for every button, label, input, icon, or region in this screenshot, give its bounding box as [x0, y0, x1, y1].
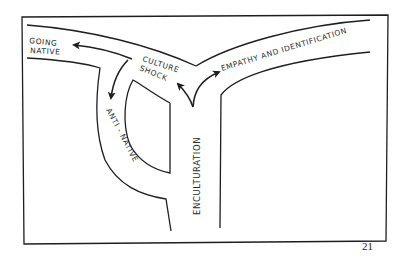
arrow-to-anti-native-icon: [111, 60, 128, 98]
label-going-native-line2: NATIVE: [30, 46, 61, 57]
arrow-to-culture-shock-icon: [178, 84, 193, 107]
road-edge-center-right: [220, 52, 370, 228]
arrow-to-going-native-icon: [74, 45, 132, 59]
road-edge-left-branch-outer: [27, 58, 171, 231]
arrow-to-empathy-icon: [193, 72, 219, 107]
road-diagram: GOING NATIVE CULTURE SHOCK EMPATHY AND I…: [0, 0, 408, 264]
diagram-border: [22, 15, 388, 244]
label-enculturation: ENCULTURATION: [192, 137, 202, 215]
page-number: 21: [362, 240, 373, 252]
label-anti-native: ANTI - NATIVE: [104, 107, 140, 164]
